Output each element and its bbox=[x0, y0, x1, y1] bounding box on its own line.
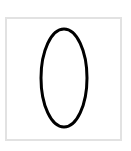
ellipse-shape bbox=[0, 0, 131, 151]
ellipse-outline bbox=[41, 29, 87, 127]
